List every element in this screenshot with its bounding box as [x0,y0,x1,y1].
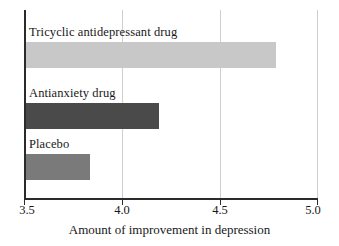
gridline-5-0 [317,10,318,199]
x-axis-line [24,198,318,200]
x-axis-title: Amount of improvement in depression [0,222,339,237]
bar-chart: Tricyclic antidepressant drug Antianxiet… [0,0,339,246]
bar-label-tricyclic-antidepressant-drug: Tricyclic antidepressant drug [29,26,177,39]
x-tick-label-3-5: 3.5 [19,203,35,217]
bar-label-antianxiety-drug: Antianxiety drug [29,87,116,100]
bar-tricyclic-antidepressant-drug [26,42,276,68]
bar-antianxiety-drug [26,103,159,129]
bar-placebo [26,154,90,180]
gridline-4-5 [220,10,221,199]
x-tick-label-4-0: 4.0 [114,203,130,217]
x-tick-label-4-5: 4.5 [212,203,228,217]
x-tick-label-5-0: 5.0 [305,203,321,217]
bar-label-placebo: Placebo [29,138,69,151]
